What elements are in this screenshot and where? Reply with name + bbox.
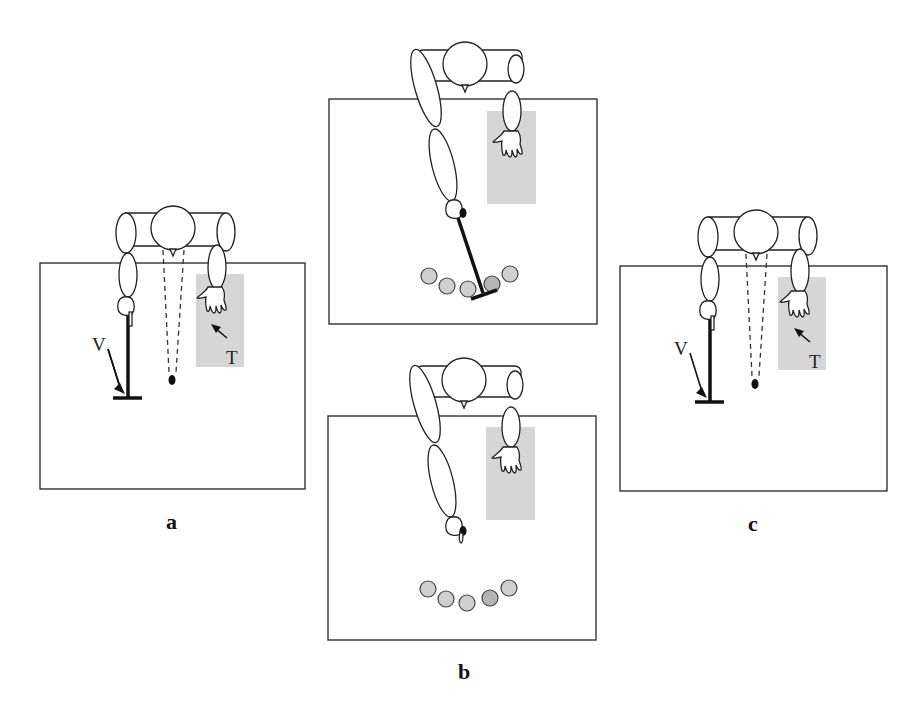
left-upper-arm bbox=[698, 217, 718, 257]
target-ball bbox=[459, 595, 475, 611]
thumb bbox=[711, 316, 714, 330]
arrowhead-v-icon bbox=[114, 383, 125, 394]
right-forearm bbox=[791, 249, 809, 293]
gaze-line-left bbox=[163, 250, 169, 372]
panel-label-b: b bbox=[458, 659, 470, 684]
target-ball bbox=[460, 281, 476, 297]
panel-label-a: a bbox=[166, 509, 177, 534]
target-ball bbox=[438, 591, 454, 607]
fixation-point bbox=[169, 375, 176, 385]
finger-point bbox=[459, 532, 463, 543]
panel-c: V T c bbox=[620, 210, 887, 536]
left-forearm bbox=[701, 257, 719, 301]
left-hand-icon bbox=[446, 200, 463, 219]
target-ball bbox=[502, 266, 518, 282]
panel-b-bottom: b bbox=[328, 358, 596, 684]
thumb-grip bbox=[460, 208, 467, 218]
target-ball bbox=[421, 268, 437, 284]
label-v: V bbox=[674, 338, 688, 359]
nose-icon bbox=[170, 249, 176, 256]
nose-icon bbox=[461, 401, 467, 408]
right-upper-arm bbox=[507, 371, 523, 399]
gaze-line-right bbox=[759, 254, 767, 376]
gaze-line-right bbox=[176, 250, 184, 372]
target-ball bbox=[420, 581, 436, 597]
target-ball bbox=[501, 580, 517, 596]
right-forearm bbox=[502, 407, 520, 447]
fixation-point bbox=[752, 379, 759, 389]
label-t: T bbox=[226, 347, 238, 368]
right-forearm bbox=[208, 245, 226, 289]
target-ball bbox=[484, 276, 500, 292]
head bbox=[443, 42, 487, 86]
nose-icon bbox=[462, 85, 468, 92]
arrowhead-v-icon bbox=[696, 387, 707, 398]
figure-canvas: V T a bbox=[0, 0, 920, 706]
label-t: T bbox=[809, 351, 821, 372]
left-forearm bbox=[423, 126, 462, 203]
right-forearm bbox=[503, 91, 521, 131]
head bbox=[734, 210, 778, 254]
left-forearm bbox=[422, 442, 461, 519]
panel-label-c: c bbox=[748, 511, 758, 536]
gaze-line-left bbox=[746, 254, 752, 376]
label-v: V bbox=[92, 334, 106, 355]
panel-b-top bbox=[329, 42, 597, 324]
thumb bbox=[129, 312, 132, 326]
right-upper-arm bbox=[508, 55, 524, 83]
left-upper-arm bbox=[116, 213, 136, 253]
head bbox=[442, 358, 486, 402]
target-ball bbox=[482, 590, 498, 606]
left-forearm bbox=[119, 253, 137, 297]
target-ball bbox=[439, 278, 455, 294]
head bbox=[151, 206, 195, 250]
nose-icon bbox=[753, 253, 759, 260]
table-outline bbox=[620, 266, 887, 491]
panel-a: V T a bbox=[40, 206, 305, 534]
